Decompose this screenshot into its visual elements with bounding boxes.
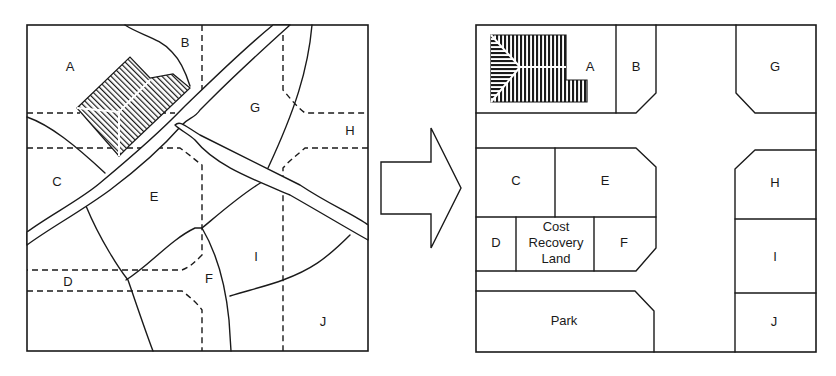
cost-recovery-label-line2: Recovery [529, 235, 584, 250]
parcel-label-h: H [770, 175, 779, 190]
parcel-label-g: G [770, 59, 780, 74]
parcel-label-d: D [63, 274, 72, 289]
parcel-label-i: I [773, 249, 777, 264]
parcel-label-e: E [150, 189, 159, 204]
cost-recovery-label-line1: Cost [543, 219, 570, 234]
parcel-label-g: G [250, 100, 260, 115]
parcel-label-c: C [52, 174, 61, 189]
parcel-label-c: C [511, 173, 520, 188]
parcel-label-f: F [205, 271, 213, 286]
transform-arrow-icon [381, 128, 461, 248]
parcel-label-f: F [620, 235, 628, 250]
parcel-label-b: B [181, 35, 190, 50]
parcel-label-b: B [632, 59, 641, 74]
parcel-label-j: J [771, 314, 778, 329]
parcel-label-j: J [320, 314, 327, 329]
before-map: A B C D E F G H I J [27, 25, 368, 351]
land-readjustment-diagram: A B C D E F G H I J A B [0, 0, 836, 376]
before-map-frame [27, 25, 368, 351]
parcel-label-d: D [491, 235, 500, 250]
after-map: A B G C E H D Cost Recovery Land F I Par… [476, 25, 816, 352]
parcel-label-e: E [601, 173, 610, 188]
parcel-label-h: H [345, 123, 354, 138]
parcel-label-park: Park [551, 313, 578, 328]
parcel-label-a: A [66, 59, 75, 74]
parcel-label-a: A [586, 59, 595, 74]
cost-recovery-label-line3: Land [542, 251, 571, 266]
parcel-label-i: I [254, 249, 258, 264]
